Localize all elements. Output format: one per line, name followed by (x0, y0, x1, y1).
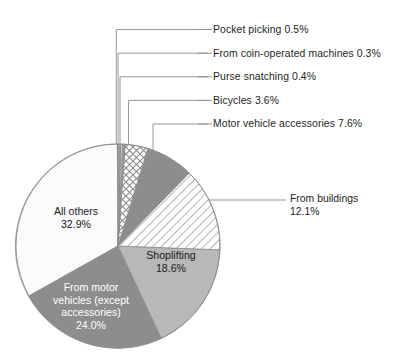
all-others-name: All others (26, 205, 126, 218)
slice-label-all-others: All others 32.9% (26, 205, 126, 230)
shoplifting-name: Shoplifting (126, 249, 216, 262)
all-others-value: 32.9% (26, 218, 126, 231)
callout-label-coin-operated-machines: From coin-operated machines 0.3% (213, 48, 381, 60)
callout-label-from-buildings: From buildings 12.1% (290, 193, 358, 218)
from-motor-vehicles-line2: vehicles (except (39, 294, 143, 307)
slice-label-shoplifting: Shoplifting 18.6% (126, 249, 216, 274)
from-motor-vehicles-line1: From motor (39, 281, 143, 294)
pie-chart-figure: Pocket picking 0.5% From coin-operated m… (0, 0, 411, 358)
callout-label-motor-vehicle-accessories: Motor vehicle accessories 7.6% (213, 118, 362, 130)
from-motor-vehicles-value: 24.0% (39, 319, 143, 332)
callout-label-purse-snatching: Purse snatching 0.4% (213, 71, 316, 83)
leader-tick-marks (198, 30, 208, 125)
callout-label-bicycles: Bicycles 3.6% (213, 95, 279, 107)
slice-label-from-motor-vehicles: From motor vehicles (except accessories)… (39, 281, 143, 331)
from-buildings-value: 12.1% (290, 206, 358, 219)
from-buildings-name: From buildings (290, 193, 358, 204)
from-motor-vehicles-line3: accessories) (39, 306, 143, 319)
callout-label-pocket-picking: Pocket picking 0.5% (213, 24, 308, 36)
shoplifting-value: 18.6% (126, 262, 216, 275)
